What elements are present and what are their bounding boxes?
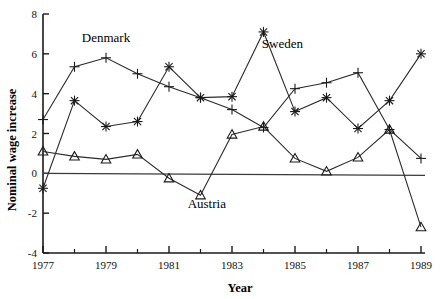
y-tick-label: -4 [28, 247, 38, 259]
data-point-marker [385, 96, 395, 106]
series-label-austria: Austria [188, 196, 227, 211]
y-axis-tick-labels: -4-202468 [28, 8, 38, 259]
x-tick-label: 1977 [32, 259, 55, 271]
y-tick-label: 4 [32, 88, 38, 100]
data-point-marker [353, 68, 363, 78]
data-point-marker [70, 62, 80, 72]
x-tick-label: 1987 [347, 259, 370, 271]
data-point-marker [133, 69, 143, 79]
chart-canvas: -4-202468 1977197919811983198519871989 D… [0, 0, 445, 299]
y-tick-label: 2 [32, 128, 38, 140]
x-tick-label: 1979 [95, 259, 118, 271]
series-denmark [38, 53, 426, 164]
zero-line [43, 173, 425, 175]
x-axis-tick-labels: 1977197919811983198519871989 [32, 259, 433, 271]
data-point-marker [38, 183, 48, 193]
data-point-marker [290, 107, 300, 117]
y-tick-label: 8 [32, 8, 38, 20]
data-point-marker [70, 96, 80, 106]
data-point-marker [164, 62, 174, 72]
y-tick-label: 6 [32, 48, 38, 60]
data-point-marker [101, 122, 111, 132]
zero-reference-line [43, 173, 425, 175]
wage-increase-line-chart: -4-202468 1977197919811983198519871989 D… [0, 0, 445, 299]
series-label-denmark: Denmark [82, 30, 131, 45]
x-tick-label: 1989 [410, 259, 433, 271]
data-point-marker [416, 49, 426, 59]
x-axis-title: Year [228, 281, 253, 295]
data-point-marker [164, 82, 174, 92]
y-axis-title: Nominal wage increase [5, 88, 19, 211]
y-tick-label: -2 [28, 207, 37, 219]
series-annotations: DenmarkSwedenAustria [82, 30, 304, 211]
series-austria [38, 122, 426, 231]
data-point-marker [133, 117, 143, 127]
x-tick-label: 1981 [158, 259, 180, 271]
data-point-marker [38, 115, 48, 125]
data-series-group [38, 27, 426, 231]
data-point-marker [322, 78, 332, 88]
y-tick-label: 0 [32, 167, 38, 179]
data-point-marker [227, 92, 237, 102]
x-tick-label: 1985 [284, 259, 307, 271]
data-point-marker [227, 105, 237, 115]
series-polyline [43, 127, 421, 228]
x-tick-label: 1983 [221, 259, 244, 271]
data-point-marker [353, 124, 363, 134]
series-label-sweden: Sweden [262, 36, 304, 51]
data-point-marker [101, 53, 111, 63]
data-point-marker [196, 93, 206, 103]
data-point-marker [322, 93, 332, 103]
